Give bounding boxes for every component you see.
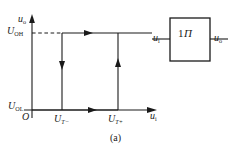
x-tick-label-ut-minus: UT− <box>54 114 69 124</box>
upper-branch <box>62 30 152 36</box>
falling-edge <box>59 33 65 110</box>
hysteresis-icon: Π <box>184 27 192 39</box>
figure-container: uo UOH UOL O UT− UT+ ui ui uo 1Π (a) <box>0 0 231 157</box>
falling-edge-arrow <box>59 61 65 70</box>
lower-branch <box>32 107 118 113</box>
rising-edge-arrow <box>115 58 121 67</box>
y-axis-arrowhead <box>29 14 35 23</box>
block-outline <box>170 18 210 61</box>
figure-caption: (a) <box>0 133 231 143</box>
y-axis-label: uo <box>18 14 26 24</box>
x-axis-label: ui <box>150 111 157 121</box>
y-tick-label-uol: UOL <box>8 101 23 111</box>
y-tick-label-uoh: UOH <box>7 26 23 36</box>
origin-label: O <box>22 112 29 122</box>
upper-branch-arrow <box>84 30 93 36</box>
rising-edge <box>115 33 121 110</box>
y-axis <box>29 14 35 118</box>
block-symbol: 1Π <box>178 28 192 39</box>
block-output-label: uo <box>214 33 222 43</box>
block-input-label: ui <box>153 33 160 43</box>
lower-branch-arrow <box>88 107 97 113</box>
x-tick-label-ut-plus: UT+ <box>108 114 123 124</box>
